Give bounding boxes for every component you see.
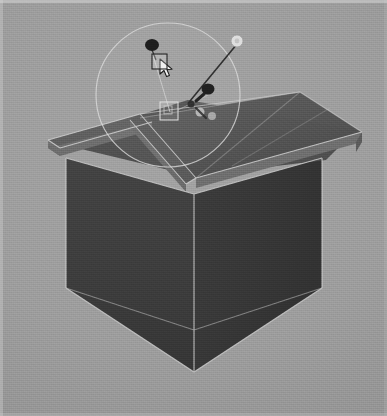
cursor-badge-square [152, 54, 167, 69]
scene-root [0, 0, 387, 416]
cursor-tool-badge [0, 0, 387, 416]
3d-viewport-canvas[interactable] [0, 0, 387, 416]
viewport-window [0, 0, 387, 416]
